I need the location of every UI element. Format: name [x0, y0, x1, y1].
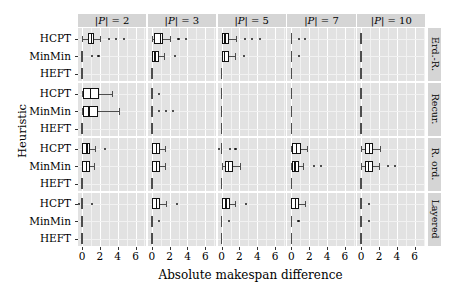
- minor-gridline: [231, 83, 232, 136]
- y-tick-label-minmin-row3: MinMin: [0, 161, 71, 171]
- boxplot-median-hcpt: [160, 33, 161, 44]
- x-tick-label-0-col1: 0: [75, 251, 89, 262]
- major-gridline: [275, 138, 276, 191]
- boxplot-median-minmin: [228, 161, 229, 172]
- boxplot-box-minmin: [83, 106, 99, 117]
- boxplot-whisker-cap: [119, 108, 120, 115]
- minor-gridline: [196, 83, 197, 136]
- y-tick-label-heft-row2: HEFT: [0, 123, 71, 133]
- panel-r4-c2: [148, 193, 216, 246]
- major-gridline: [118, 193, 119, 246]
- major-gridline: [136, 138, 137, 191]
- lane-gridline: [148, 74, 216, 75]
- boxplot-degenerate-heft: [360, 68, 362, 79]
- boxplot-degenerate-hcpt: [151, 88, 153, 99]
- minor-gridline: [161, 83, 162, 136]
- panel-r3-c3: [218, 138, 286, 191]
- boxplot-outlier: [244, 38, 246, 40]
- minor-gridline: [370, 28, 371, 81]
- major-gridline: [187, 28, 188, 81]
- major-gridline: [170, 83, 171, 136]
- boxplot-degenerate-heft: [151, 178, 153, 189]
- minor-gridline: [196, 138, 197, 191]
- y-tick-label-heft-row4: HEFT: [0, 233, 71, 243]
- minor-gridline: [144, 83, 145, 136]
- boxplot-degenerate-minmin: [151, 106, 153, 117]
- minor-gridline: [231, 193, 232, 246]
- major-gridline: [345, 83, 346, 136]
- boxplot-degenerate-heft: [81, 123, 83, 134]
- major-gridline: [100, 138, 101, 191]
- x-tick-label-4-col4: 4: [320, 251, 334, 262]
- major-gridline: [239, 28, 240, 81]
- boxplot-whisker-cap: [82, 36, 83, 43]
- panel-r3-c1: [78, 138, 146, 191]
- x-tick-label-6-col1: 6: [129, 251, 143, 262]
- major-gridline: [187, 193, 188, 246]
- lane-gridline: [78, 221, 146, 222]
- minor-gridline: [388, 83, 389, 136]
- y-tick-label-heft-row3: HEFT: [0, 178, 71, 188]
- minor-gridline: [284, 83, 285, 136]
- major-gridline: [415, 83, 416, 136]
- minor-gridline: [214, 193, 215, 246]
- minor-gridline: [161, 138, 162, 191]
- minor-gridline: [179, 193, 180, 246]
- lane-gridline: [287, 94, 355, 95]
- boxplot-whisker-cap: [100, 36, 101, 43]
- major-gridline: [187, 138, 188, 191]
- boxplot-degenerate-hcpt: [360, 198, 362, 209]
- minor-gridline: [370, 193, 371, 246]
- column-strip-label-1: |P| = 2: [78, 14, 146, 27]
- minor-gridline: [214, 83, 215, 136]
- minor-gridline: [127, 193, 128, 246]
- row-strip-label-1: Erd.-R.: [428, 28, 441, 81]
- minor-gridline: [318, 83, 319, 136]
- lane-gridline: [148, 129, 216, 130]
- panel-r1-c4: [287, 28, 355, 81]
- boxplot-degenerate-hcpt: [360, 33, 362, 44]
- boxplot-degenerate-heft: [291, 178, 293, 189]
- boxplot-median-hcpt: [369, 143, 370, 154]
- y-tick-label-hcpt-row1: HCPT: [0, 33, 71, 43]
- minor-gridline: [388, 193, 389, 246]
- boxplot-median-hcpt: [156, 143, 157, 154]
- boxplot-degenerate-hcpt: [221, 88, 223, 99]
- lane-gridline: [218, 239, 286, 240]
- y-tick-mark: [75, 129, 78, 130]
- major-gridline: [170, 138, 171, 191]
- boxplot-degenerate-minmin: [291, 106, 293, 117]
- boxplot-whisker-cap: [307, 146, 308, 153]
- minor-gridline: [370, 83, 371, 136]
- lane-gridline: [148, 239, 216, 240]
- major-gridline: [205, 138, 206, 191]
- boxplot-degenerate-heft: [221, 68, 223, 79]
- boxplot-degenerate-heft: [221, 178, 223, 189]
- boxplot-outlier: [123, 38, 125, 40]
- major-gridline: [415, 138, 416, 191]
- row-strip-label-2: Recur.: [428, 83, 441, 136]
- lane-gridline: [287, 129, 355, 130]
- panel-r1-c5: [357, 28, 425, 81]
- y-tick-mark: [75, 39, 78, 40]
- lane-gridline: [287, 184, 355, 185]
- boxplot-whisker-cap: [303, 163, 304, 170]
- minor-gridline: [424, 138, 425, 191]
- boxplot-degenerate-minmin: [151, 216, 153, 227]
- minor-gridline: [318, 28, 319, 81]
- boxplot-median-hcpt: [90, 88, 91, 99]
- major-gridline: [345, 138, 346, 191]
- boxplot-degenerate-minmin: [291, 51, 293, 62]
- boxplot-outlier: [234, 148, 236, 150]
- lane-gridline: [78, 74, 146, 75]
- boxplot-degenerate-heft: [221, 233, 223, 244]
- major-gridline: [136, 28, 137, 81]
- x-tick-label-4-col3: 4: [250, 251, 264, 262]
- boxplot-median-minmin: [154, 51, 155, 62]
- boxplot-degenerate-minmin: [291, 216, 293, 227]
- boxplot-median-hcpt: [225, 198, 226, 209]
- panel-r4-c5: [357, 193, 425, 246]
- minor-gridline: [144, 28, 145, 81]
- lane-gridline: [287, 74, 355, 75]
- major-gridline: [379, 83, 380, 136]
